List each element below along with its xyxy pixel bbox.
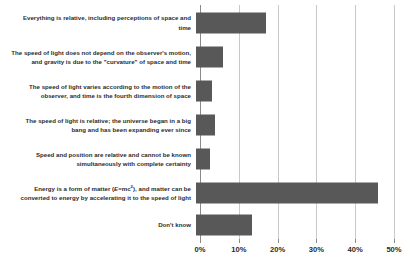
- category-label: The speed of light is relative; the univ…: [0, 116, 196, 134]
- bar: [196, 214, 252, 235]
- tick-mark: [355, 239, 356, 243]
- x-tick-label: 20%: [270, 245, 285, 254]
- category-label-line: The speed of light is relative; the univ…: [0, 116, 191, 125]
- formula-suffix: ), and matter can be: [133, 185, 191, 192]
- tick-mark: [239, 239, 240, 243]
- category-label-line: converted to energy by accelerating it t…: [0, 193, 191, 202]
- x-tick-label: 30%: [309, 245, 324, 254]
- category-label: Don't know: [0, 220, 196, 229]
- category-label-line: observer, and time is the fourth dimensi…: [0, 91, 191, 100]
- x-tick-label: 10%: [231, 245, 246, 254]
- bar-track: [196, 108, 408, 142]
- category-label-line: simultaneously with complete certainty: [0, 159, 191, 168]
- table-row: Everything is relative, including percep…: [0, 5, 408, 40]
- table-row: The speed of light is relative; the univ…: [0, 108, 408, 142]
- bar-track: [196, 40, 408, 74]
- bar-track: [196, 142, 408, 176]
- bar-rows: Everything is relative, including percep…: [0, 5, 408, 239]
- x-tick-label: 50%: [386, 245, 401, 254]
- bar: [196, 47, 223, 68]
- x-tick-label: 40%: [348, 245, 363, 254]
- bar: [196, 12, 266, 33]
- formula-prefix: Energy is a form of matter (: [34, 185, 114, 192]
- category-label: Everything is relative, including percep…: [0, 13, 196, 31]
- category-label-line: The speed of light varies according to t…: [0, 82, 191, 91]
- category-label-line: Don't know: [0, 220, 191, 229]
- table-row: Don't know: [0, 210, 408, 239]
- table-row: Energy is a form of matter (E=mc2), and …: [0, 176, 408, 210]
- category-label: The speed of light varies according to t…: [0, 82, 196, 100]
- bar-track: [196, 5, 408, 40]
- category-label-line-formula: Energy is a form of matter (E=mc2), and …: [0, 184, 191, 193]
- formula-equation: =mc: [118, 185, 130, 192]
- bar: [196, 149, 210, 170]
- bar-track: [196, 176, 408, 210]
- bar: [196, 183, 378, 204]
- x-tick-label: 0%: [195, 245, 206, 254]
- table-row: The speed of light varies according to t…: [0, 74, 408, 108]
- category-label-line: Speed and position are relative and cann…: [0, 150, 191, 159]
- category-label-line: The speed of light does not depend on th…: [0, 48, 191, 57]
- table-row: The speed of light does not depend on th…: [0, 40, 408, 74]
- category-label: Speed and position are relative and cann…: [0, 150, 196, 168]
- tick-mark: [278, 239, 279, 243]
- bar-track: [196, 74, 408, 108]
- bar-track: [196, 210, 408, 239]
- bar: [196, 81, 212, 102]
- table-row: Speed and position are relative and cann…: [0, 142, 408, 176]
- bar: [196, 115, 215, 136]
- category-label-line: and gravity is due to the "curvature" of…: [0, 57, 191, 66]
- category-label: The speed of light does not depend on th…: [0, 48, 196, 66]
- tick-mark: [316, 239, 317, 243]
- category-label-line: Everything is relative, including percep…: [0, 13, 191, 22]
- category-label: Energy is a form of matter (E=mc2), and …: [0, 184, 196, 202]
- category-label-line: time: [0, 23, 191, 32]
- tick-mark: [200, 239, 201, 243]
- bar-chart: Everything is relative, including percep…: [0, 0, 408, 269]
- tick-mark: [394, 239, 395, 243]
- category-label-line: bang and has been expanding ever since: [0, 125, 191, 134]
